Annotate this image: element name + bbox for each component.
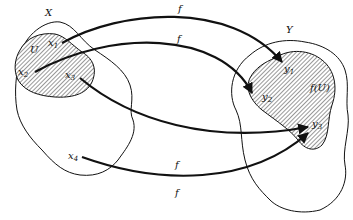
arrow-label-f3: f <box>174 159 181 170</box>
label-x4: x4 <box>68 150 78 163</box>
arrow-x4-y3 <box>82 133 308 176</box>
arrow-label-f2: f <box>176 33 183 44</box>
label-y: Y <box>286 24 294 35</box>
function-mapping-diagram: X Y U f(U) x1 x2 x3 x4 y1 y2 y3 f f f f <box>0 0 353 220</box>
arrow-label-f1: f <box>177 3 184 14</box>
label-x: X <box>44 7 53 18</box>
arrow-label-f4: f <box>174 187 181 198</box>
label-fu: f(U) <box>309 82 330 93</box>
label-u: U <box>30 44 39 55</box>
